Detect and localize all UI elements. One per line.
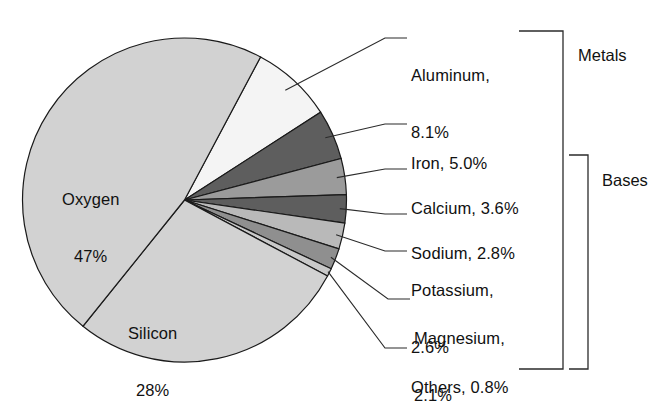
slice-label-silicon-value: 28% (128, 381, 177, 400)
leader-line-calcium (337, 169, 407, 178)
slice-label-oxygen-value: 47% (62, 247, 119, 266)
group-label-metals: Metals (578, 46, 627, 65)
group-brackets (519, 31, 588, 369)
leader-line-sodium (340, 209, 407, 214)
leader-line-potassium (336, 235, 407, 251)
leader-line-iron (325, 124, 407, 138)
slice-label-oxygen-name: Oxygen (62, 190, 119, 209)
callout-label-others: Others, 0.8% (411, 340, 509, 405)
leader-line-aluminum (285, 38, 407, 90)
callout-others-line1: Others, 0.8% (411, 378, 509, 397)
slice-label-silicon-name: Silicon (128, 324, 177, 343)
callout-aluminum-line1: Aluminum, (411, 66, 490, 85)
group-label-bases: Bases (602, 171, 648, 190)
leader-line-others (328, 272, 407, 348)
metals-bracket (519, 31, 563, 369)
leader-line-magnesium (331, 257, 410, 299)
slice-label-oxygen: Oxygen 47% (62, 152, 119, 304)
bases-bracket (569, 155, 588, 369)
slice-label-silicon: Silicon 28% (128, 286, 177, 405)
